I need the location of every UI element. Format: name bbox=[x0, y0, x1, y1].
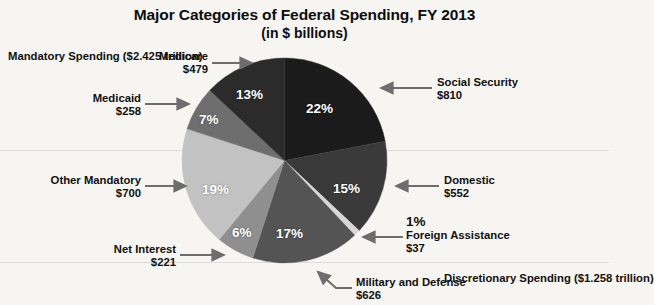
callout-military: Military and Defense $626 bbox=[356, 276, 496, 301]
domestic-value: $552 bbox=[444, 187, 594, 200]
callout-net-interest: Net Interest $221 bbox=[30, 243, 176, 268]
slice-label-other-mandatory: 19% bbox=[202, 182, 229, 197]
medicare-value: $479 bbox=[66, 63, 208, 76]
foreign-assistance-pct: 1% bbox=[406, 215, 556, 229]
medicaid-value: $258 bbox=[0, 105, 141, 118]
net-interest-value: $221 bbox=[30, 256, 176, 269]
slice-label-medicare: 13% bbox=[236, 87, 263, 102]
group-discretionary-amount: ($1.258 trillion) bbox=[574, 272, 654, 284]
social-security-name: Social Security bbox=[437, 76, 518, 88]
domestic-name: Domestic bbox=[444, 174, 495, 186]
slice-label-domestic: 15% bbox=[333, 181, 360, 196]
callout-medicare: Medicare $479 bbox=[66, 50, 208, 75]
callout-medicaid: Medicaid $258 bbox=[0, 92, 141, 117]
military-name: Military and Defense bbox=[356, 276, 466, 288]
slice-label-military: 17% bbox=[276, 226, 303, 241]
social-security-value: $810 bbox=[437, 89, 597, 102]
medicare-name: Medicare bbox=[159, 50, 208, 62]
other-mandatory-value: $700 bbox=[0, 187, 141, 200]
military-value: $626 bbox=[356, 289, 496, 302]
slice-label-social-security: 22% bbox=[306, 101, 333, 116]
foreign-assistance-value: $37 bbox=[406, 242, 556, 255]
callout-domestic: Domestic $552 bbox=[444, 174, 594, 199]
medicaid-name: Medicaid bbox=[93, 92, 141, 104]
foreign-assistance-name: Foreign Assistance bbox=[406, 229, 510, 241]
net-interest-name: Net Interest bbox=[114, 243, 176, 255]
callout-foreign-assistance: 1% Foreign Assistance $37 bbox=[406, 215, 556, 254]
callout-social-security: Social Security $810 bbox=[437, 76, 597, 101]
slice-label-medicaid: 7% bbox=[199, 112, 219, 127]
other-mandatory-name: Other Mandatory bbox=[51, 174, 141, 186]
callout-other-mandatory: Other Mandatory $700 bbox=[0, 174, 141, 199]
slice-label-net-interest: 6% bbox=[232, 225, 252, 240]
